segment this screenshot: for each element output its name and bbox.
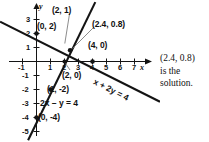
- y-tick-label-3: 3: [26, 16, 30, 24]
- label-point-2.4-0.8: (2.4, 0.8): [92, 20, 125, 29]
- solution-line-2: is the: [160, 65, 209, 78]
- equation-label-line1: 2x – y = 4: [40, 99, 78, 108]
- y-axis-label: y: [39, 3, 43, 11]
- solution-caption: (2.4, 0.8) is the solution.: [160, 52, 209, 90]
- label-point-2-1: (2, 1): [52, 6, 71, 15]
- y-tick-label--4: -4: [22, 114, 29, 122]
- point-intersection-2.4-0.8: [68, 48, 73, 53]
- point-0-2: [34, 31, 39, 36]
- y-tick-label--5: -5: [22, 128, 29, 136]
- solution-line-1: (2.4, 0.8): [160, 52, 209, 65]
- x-tick-label-5: 5: [104, 64, 108, 72]
- y-tick-label-2: 2: [26, 30, 30, 38]
- solution-line-3: solution.: [160, 77, 209, 90]
- x-axis-arrow: [145, 58, 152, 64]
- label-point-2-0: (2, 0): [62, 71, 81, 80]
- leader-line-2-1: [65, 14, 70, 44]
- label-point-1-minus-2: (1, -2): [47, 85, 69, 94]
- x-tick-label-7: 7: [132, 64, 136, 72]
- x-tick-label-6: 6: [118, 64, 122, 72]
- x-tick-label-4: 4: [90, 64, 94, 72]
- label-point-4-0: (4, 0): [88, 41, 107, 50]
- label-point-0-2: (0, 2): [37, 22, 56, 31]
- label-point-0-minus-4: (0, -4): [38, 113, 60, 122]
- x-axis-label: x: [140, 64, 144, 72]
- y-tick-label-1: 1: [26, 44, 30, 52]
- y-tick-label--2: -2: [22, 86, 29, 94]
- graph-figure: -1 1 2 3 4 5 6 7 3 2 1 -1 -2 -3 -4 -5 x …: [0, 0, 209, 142]
- y-tick-label--1: -1: [22, 72, 29, 80]
- x-tick-label-1: 1: [48, 64, 52, 72]
- y-tick-label--3: -3: [22, 100, 29, 108]
